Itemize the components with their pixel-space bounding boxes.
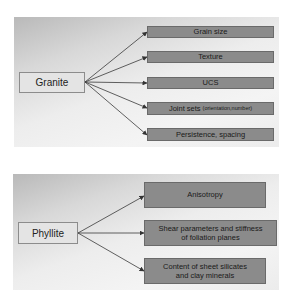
granite-item-grain-size: Grain size xyxy=(147,26,274,38)
granite-item-sublabel: (orientation,number) xyxy=(203,105,253,112)
phyllite-item-line2: and clay minerals xyxy=(176,271,234,280)
granite-root-node: Granite xyxy=(19,72,85,93)
phyllite-item-line1: Anisotropy xyxy=(187,190,222,199)
phyllite-item-shear-parameters: Shear parameters and stiffness of foliat… xyxy=(144,220,277,246)
granite-item-label: Texture xyxy=(198,52,223,61)
phyllite-item-line1: Content of sheet silicates xyxy=(163,262,247,271)
granite-item-ucs: UCS xyxy=(147,77,274,89)
phyllite-item-anisotropy: Anisotropy xyxy=(144,182,266,208)
phyllite-item-line2: of foliation planes xyxy=(181,233,239,242)
granite-item-label: UCS xyxy=(203,78,219,87)
granite-item-label: Persistence, spacing xyxy=(176,130,245,139)
granite-item-persistence: Persistence, spacing xyxy=(147,128,274,141)
granite-item-joint-sets: Joint sets (orientation,number) xyxy=(147,102,274,115)
granite-item-label: Joint sets xyxy=(169,104,201,113)
phyllite-root-node: Phyllite xyxy=(18,222,78,244)
granite-item-label: Grain size xyxy=(194,27,228,36)
phyllite-root-label: Phyllite xyxy=(32,228,64,239)
phyllite-item-line1: Shear parameters and stiffness xyxy=(158,224,262,233)
granite-item-texture: Texture xyxy=(147,51,274,63)
granite-root-label: Granite xyxy=(36,77,69,88)
phyllite-item-sheet-silicates: Content of sheet silicates and clay mine… xyxy=(144,258,266,284)
